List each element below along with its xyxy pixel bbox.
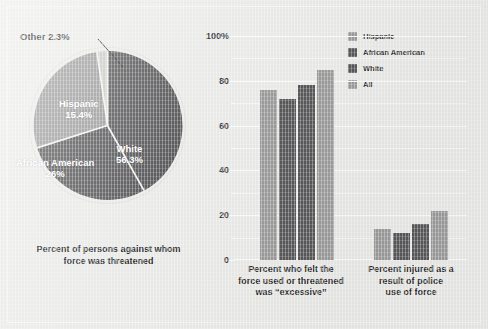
tickmark-0 <box>229 260 234 261</box>
bar-group-label-injured: Percent injured as a result of police us… <box>346 264 476 299</box>
pie-chart-panel: White 56.3% African American 26% Hispani… <box>6 6 211 311</box>
bar-excessive-african-american <box>279 99 296 260</box>
pie-label-white-name: White <box>116 143 143 154</box>
pie-label-hispanic-value: 15.4% <box>59 109 99 120</box>
pie-label-white: White 56.3% <box>116 143 143 165</box>
pie-callout-label-other: Other 2.3% <box>20 31 70 42</box>
pie-label-african-american: African American 26% <box>16 157 94 179</box>
bar-group-label-excessive-line-2: force used or threatened <box>226 276 356 288</box>
bar-chart-panel: Hispanic African American White All <box>196 6 482 311</box>
bar-group-label-injured-line-1: Percent injured as a <box>346 264 476 276</box>
ytick-label-60: 60 <box>219 121 229 131</box>
bar-injured-white <box>412 224 429 260</box>
bar-chart-plot-area: 100% 80 60 40 20 0 <box>234 36 467 260</box>
pie-label-hispanic: Hispanic 15.4% <box>59 98 99 120</box>
pie-label-white-value: 56.3% <box>116 154 143 165</box>
bar-injured-african-american <box>393 233 410 260</box>
bar-group-excessive-force <box>260 36 334 260</box>
bar-group-label-excessive-line-3: was “excessive” <box>226 287 356 299</box>
bar-injured-hispanic <box>374 229 391 260</box>
pie-caption-line-2: force was threatened <box>6 256 211 268</box>
ytick-label-40: 40 <box>219 165 229 175</box>
pie-label-african-american-value: 26% <box>16 168 94 179</box>
bar-excessive-all <box>317 70 334 260</box>
ytick-label-100: 100% <box>206 31 229 41</box>
bar-injured-all <box>431 211 448 260</box>
pie-label-african-american-name: African American <box>16 157 94 168</box>
pie-label-hispanic-name: Hispanic <box>59 98 99 109</box>
bar-excessive-hispanic <box>260 90 277 260</box>
pie-caption: Percent of persons against whom force wa… <box>6 244 211 267</box>
pie-caption-line-1: Percent of persons against whom <box>6 244 211 256</box>
bar-group-label-injured-line-3: use of force <box>346 287 476 299</box>
bar-excessive-white <box>298 85 315 260</box>
figure-canvas: White 56.3% African American 26% Hispani… <box>0 0 488 329</box>
bar-group-label-excessive-line-1: Percent who felt the <box>226 264 356 276</box>
bar-group-label-excessive-force: Percent who felt the force used or threa… <box>226 264 356 299</box>
ytick-label-80: 80 <box>219 76 229 86</box>
bar-group-injured <box>374 36 448 260</box>
pie-chart: White 56.3% African American 26% Hispani… <box>30 48 185 203</box>
pie-slices <box>30 48 185 203</box>
ytick-label-20: 20 <box>219 210 229 220</box>
bar-group-label-injured-line-2: result of police <box>346 276 476 288</box>
bar-groups <box>234 36 467 260</box>
